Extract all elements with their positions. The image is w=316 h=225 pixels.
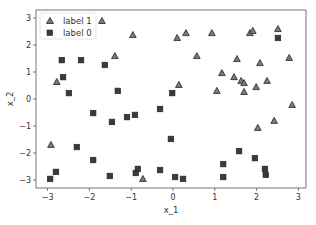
y-axis-ticks: −3−2−10123 (19, 14, 36, 185)
y-tick-label: −2 (19, 149, 31, 158)
square-marker-icon (60, 74, 66, 80)
square-marker-icon (236, 148, 242, 154)
square-marker-icon (157, 106, 163, 112)
square-marker-icon (172, 174, 178, 180)
square-marker-icon (66, 90, 72, 96)
scatter-chart: −3−2−10123 −3−2−10123 x_1 x_2 label 1 la… (0, 0, 316, 225)
square-marker-icon (275, 35, 281, 41)
square-marker-icon (107, 173, 113, 179)
square-marker-icon (220, 161, 226, 167)
square-marker-icon (262, 166, 268, 172)
square-marker-icon (78, 57, 84, 63)
y-tick-label: 0 (26, 95, 31, 104)
square-marker-icon (90, 157, 96, 163)
square-marker-icon (263, 172, 269, 178)
y-tick-label: −1 (19, 122, 31, 131)
legend-label: label 0 (63, 28, 92, 38)
x-tick-label: 2 (254, 193, 259, 202)
x-tick-label: 3 (296, 193, 301, 202)
square-marker-icon (252, 155, 258, 161)
y-tick-label: 2 (26, 41, 31, 50)
square-marker-icon (220, 174, 226, 180)
x-axis-ticks: −3−2−10123 (42, 188, 301, 202)
y-axis-label: x_2 (5, 92, 15, 107)
square-marker-icon (168, 136, 174, 142)
square-marker-icon (47, 30, 53, 36)
x-tick-label: −1 (125, 193, 137, 202)
x-tick-label: 0 (170, 193, 175, 202)
square-marker-icon (102, 62, 108, 68)
square-marker-icon (132, 112, 138, 118)
square-marker-icon (90, 110, 96, 116)
y-tick-label: 1 (26, 68, 31, 77)
square-marker-icon (169, 90, 175, 96)
square-marker-icon (133, 170, 139, 176)
x-tick-label: 1 (212, 193, 217, 202)
square-marker-icon (124, 114, 130, 120)
square-marker-icon (180, 176, 186, 182)
square-marker-icon (115, 88, 121, 94)
x-tick-label: −3 (42, 193, 54, 202)
square-marker-icon (53, 169, 59, 175)
square-marker-icon (47, 176, 53, 182)
square-marker-icon (74, 144, 80, 150)
square-marker-icon (59, 57, 65, 63)
y-tick-label: −3 (19, 176, 31, 185)
legend-label: label 1 (63, 16, 92, 26)
square-marker-icon (157, 167, 163, 173)
x-tick-label: −2 (84, 193, 96, 202)
square-marker-icon (109, 119, 115, 125)
x-axis-label: x_1 (164, 205, 179, 215)
y-tick-label: 3 (26, 14, 31, 23)
legend: label 1 label 0 (40, 13, 96, 39)
